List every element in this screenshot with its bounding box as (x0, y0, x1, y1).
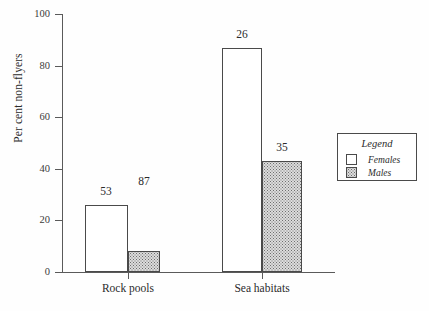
legend-label-males: Males (368, 168, 391, 178)
y-tick-label-20: 20 (24, 215, 50, 226)
y-tick-80 (55, 66, 63, 67)
bar-value-males-rock-pools: 87 (114, 176, 174, 188)
bar-males-rock-pools (128, 251, 160, 272)
bar-females-sea-habitats (222, 48, 262, 272)
bar-value-males-sea-habitats: 35 (252, 142, 312, 154)
legend-swatch-females (346, 154, 357, 165)
y-tick-100 (55, 14, 63, 15)
y-tick-label-80-wrap: 80 (20, 61, 50, 71)
y-tick-label-80: 80 (24, 61, 50, 72)
bar-chart: Per cent non-flyers 100 80 60 40 20 0 53… (0, 0, 429, 311)
x-axis-label-sea-habitats: Sea habitats (202, 282, 322, 294)
bar-value-females-rock-pools: 53 (76, 186, 136, 198)
legend-title: Legend (338, 138, 416, 149)
y-tick-0 (55, 272, 63, 273)
y-tick-label-0: 0 (24, 267, 50, 278)
bar-females-rock-pools (85, 205, 128, 272)
y-tick-label-100-wrap: 100 (20, 9, 50, 19)
y-axis-title: Per cent non-flyers (12, 28, 24, 168)
y-tick-label-60: 60 (24, 112, 50, 123)
y-tick-label-100: 100 (24, 9, 50, 20)
y-tick-20 (55, 220, 63, 221)
legend: Legend Females Males (337, 133, 417, 181)
x-tick-rock-pools (128, 272, 129, 279)
y-tick-60 (55, 117, 63, 118)
y-tick-40 (55, 169, 63, 170)
bar-value-females-sea-habitats: 26 (212, 29, 272, 41)
y-axis-line (62, 14, 63, 273)
x-axis-line (62, 272, 335, 273)
y-tick-label-20-wrap: 20 (20, 215, 50, 225)
y-tick-label-40: 40 (24, 164, 50, 175)
y-tick-label-60-wrap: 60 (20, 112, 50, 122)
y-tick-label-40-wrap: 40 (20, 164, 50, 174)
bar-males-sea-habitats (262, 161, 302, 272)
legend-label-females: Females (368, 155, 400, 165)
x-tick-sea-habitats (262, 272, 263, 279)
x-axis-label-rock-pools: Rock pools (68, 282, 188, 294)
legend-swatch-males (346, 167, 357, 178)
y-tick-label-0-wrap: 0 (20, 267, 50, 277)
